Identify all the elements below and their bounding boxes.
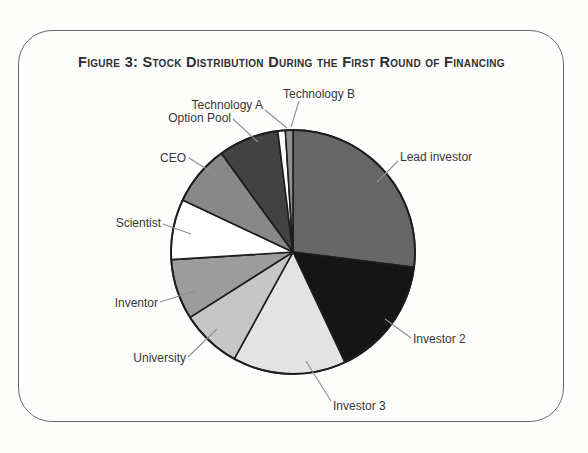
leader-line-technology-b bbox=[291, 101, 299, 127]
slice-label-inventor: Inventor bbox=[115, 296, 158, 311]
slice-label-university: University bbox=[133, 351, 186, 366]
slice-label-option-pool: Option Pool bbox=[168, 111, 231, 126]
figure-page: Figure 3: Stock Distribution During the … bbox=[0, 0, 588, 453]
slice-label-technology-a: Technology A bbox=[192, 98, 263, 113]
slice-label-lead-investor: Lead investor bbox=[400, 150, 472, 165]
slice-label-ceo: CEO bbox=[160, 151, 186, 166]
slice-label-investor-3: Investor 3 bbox=[333, 399, 386, 414]
slice-label-scientist: Scientist bbox=[116, 216, 161, 231]
leader-line-option-pool bbox=[233, 119, 258, 142]
pie-chart bbox=[0, 0, 588, 453]
slice-label-investor-2: Investor 2 bbox=[413, 332, 466, 347]
leader-line-technology-a bbox=[265, 110, 287, 128]
pie-slice-lead-investor bbox=[293, 130, 415, 267]
slice-label-technology-b: Technology B bbox=[283, 87, 355, 102]
